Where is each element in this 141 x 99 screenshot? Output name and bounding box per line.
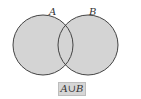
set-b-label: B (88, 6, 96, 17)
set-a-label: A (48, 6, 56, 17)
caption-box: A∪B (58, 82, 86, 96)
